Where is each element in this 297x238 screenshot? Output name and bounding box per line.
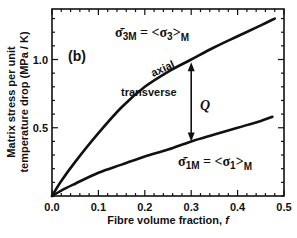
transverse-curve-label: transverse (121, 86, 177, 98)
x-tick-label: 0.5 (276, 201, 291, 213)
series-lines (52, 19, 275, 196)
x-tick-label: 0.2 (137, 201, 152, 213)
y-tick-label: 1.0 (33, 54, 48, 66)
transverse-equation: σ̄1M = <σ1>M (178, 154, 252, 172)
x-tick-label: 0.4 (230, 201, 246, 213)
gap-arrow-head-top (188, 62, 195, 71)
x-tick-label: 0.3 (184, 201, 199, 213)
gap-label: Q (200, 98, 210, 113)
axial-equation: σ̄3M = <σ3>M (115, 25, 189, 43)
x-tick-label: 0.1 (91, 201, 106, 213)
y-axis-title-line1: Matrix stress per unit (5, 46, 17, 158)
y-tick-label: 0.5 (33, 122, 48, 134)
x-tick-label: 0.0 (44, 201, 59, 213)
panel-label: (b) (68, 48, 86, 64)
axial-line (52, 19, 275, 196)
x-axis-title: Fibre volume fraction, f (107, 214, 230, 226)
gap-arrow (188, 62, 195, 141)
y-axis-title-line2: temperature drop (MPa / K) (18, 31, 30, 173)
chart: 0.00.10.20.30.40.50.51.0 (b) axial trans… (0, 0, 297, 238)
tick-labels: 0.00.10.20.30.40.50.51.0 (33, 54, 292, 213)
